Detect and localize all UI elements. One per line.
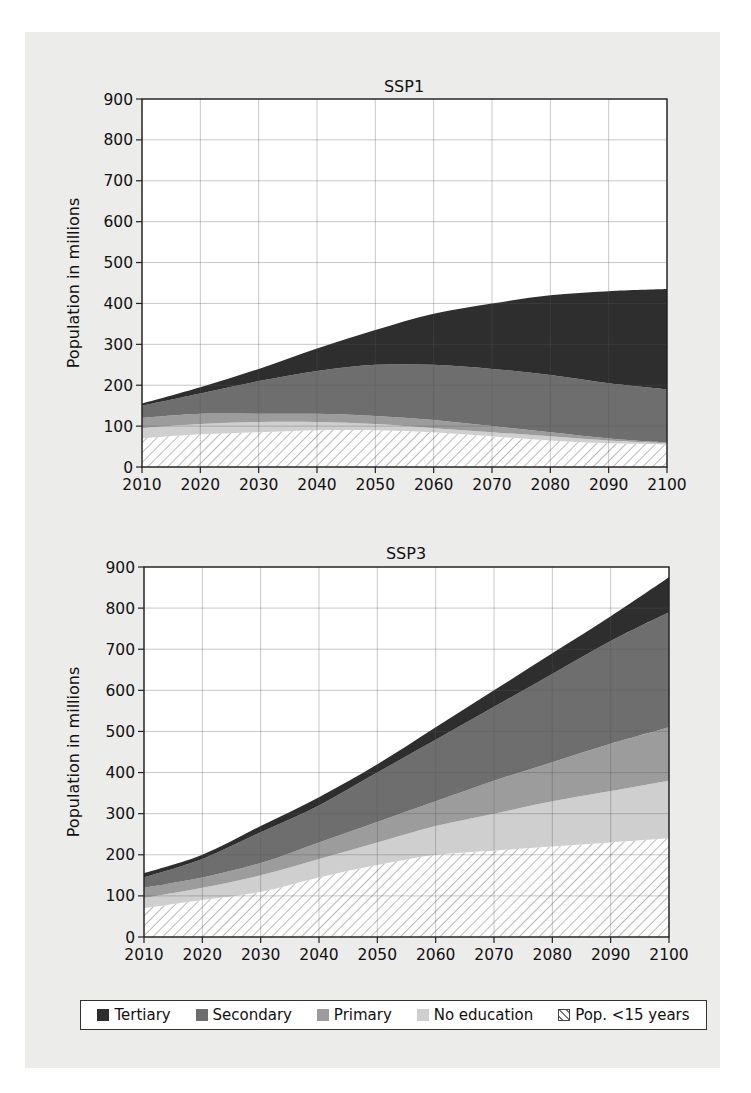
legend-label: Primary [334, 1006, 392, 1024]
x-tick-label: 2030 [241, 946, 280, 964]
y-tick-label: 600 [103, 213, 133, 231]
legend-item-secondary: Secondary [196, 1006, 292, 1024]
legend-item-tertiary: Tertiary [97, 1006, 170, 1024]
x-tick-label: 2040 [299, 946, 338, 964]
y-tick-label: 100 [103, 418, 133, 436]
x-tick-label: 2060 [416, 946, 455, 964]
legend-label: No education [434, 1006, 534, 1024]
charts-svg: SSP1 01002003004005006007008009002010202… [0, 0, 751, 1000]
chart-title: SSP3 [386, 544, 426, 563]
legend-swatch-secondary [196, 1009, 208, 1021]
x-tick-label: 2070 [474, 946, 513, 964]
y-tick-label: 400 [103, 295, 133, 313]
x-tick-label: 2060 [414, 476, 453, 494]
y-tick-label: 700 [103, 172, 133, 190]
legend-item-primary: Primary [317, 1006, 392, 1024]
legend-item-under-15: Pop. <15 years [558, 1006, 689, 1024]
y-tick-label: 900 [105, 559, 135, 577]
y-tick-label: 300 [105, 805, 135, 823]
y-tick-label: 800 [105, 600, 135, 618]
x-tick-label: 2070 [472, 476, 511, 494]
x-tick-label: 2080 [533, 946, 572, 964]
y-axis-label: Population in millions [64, 667, 83, 837]
y-tick-label: 600 [105, 682, 135, 700]
x-tick-label: 2010 [122, 476, 161, 494]
y-tick-label: 500 [105, 723, 135, 741]
legend-label: Tertiary [114, 1006, 170, 1024]
chart-legend: Tertiary Secondary Primary No education … [80, 1000, 707, 1030]
chart-ssp3: SSP3 01002003004005006007008009002010202… [64, 544, 689, 964]
x-tick-label: 2050 [356, 476, 395, 494]
legend-label: Pop. <15 years [575, 1006, 689, 1024]
y-tick-label: 800 [103, 131, 133, 149]
x-tick-label: 2050 [358, 946, 397, 964]
y-tick-label: 0 [125, 929, 135, 947]
legend-swatch-no-education [417, 1009, 429, 1021]
y-tick-label: 200 [103, 377, 133, 395]
x-tick-label: 2040 [297, 476, 336, 494]
x-tick-label: 2090 [591, 946, 630, 964]
legend-swatch-hatch [558, 1009, 570, 1021]
y-axis-label: Population in millions [64, 198, 83, 368]
y-tick-label: 300 [103, 336, 133, 354]
legend-swatch-tertiary [97, 1009, 109, 1021]
y-tick-label: 900 [103, 91, 133, 109]
x-tick-label: 2030 [239, 476, 278, 494]
legend-swatch-primary [317, 1009, 329, 1021]
y-tick-label: 100 [105, 887, 135, 905]
chart-title: SSP1 [384, 77, 424, 96]
x-tick-label: 2100 [649, 946, 688, 964]
x-tick-label: 2020 [183, 946, 222, 964]
y-tick-label: 200 [105, 846, 135, 864]
legend-label: Secondary [213, 1006, 292, 1024]
chart-ssp1: SSP1 01002003004005006007008009002010202… [64, 77, 687, 494]
x-tick-label: 2100 [647, 476, 686, 494]
x-tick-label: 2010 [124, 946, 163, 964]
y-tick-label: 500 [103, 254, 133, 272]
y-tick-label: 400 [105, 764, 135, 782]
x-tick-label: 2090 [589, 476, 628, 494]
legend-item-no-education: No education [417, 1006, 534, 1024]
x-tick-label: 2080 [531, 476, 570, 494]
y-tick-label: 700 [105, 641, 135, 659]
x-tick-label: 2020 [181, 476, 220, 494]
y-tick-label: 0 [123, 459, 133, 477]
